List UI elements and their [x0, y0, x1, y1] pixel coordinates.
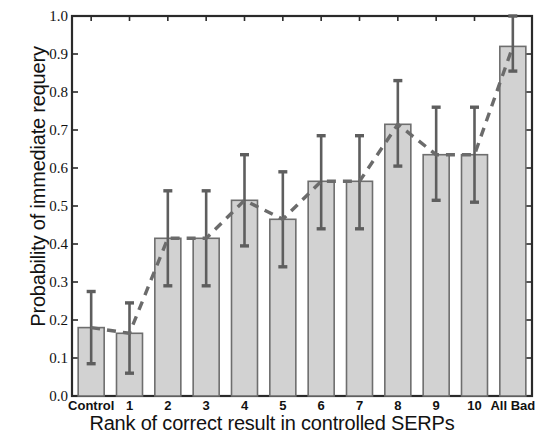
chart-figure: Probability of immediate requery Rank of…	[0, 0, 544, 438]
plot-area	[0, 0, 544, 438]
bar[interactable]	[500, 46, 526, 396]
